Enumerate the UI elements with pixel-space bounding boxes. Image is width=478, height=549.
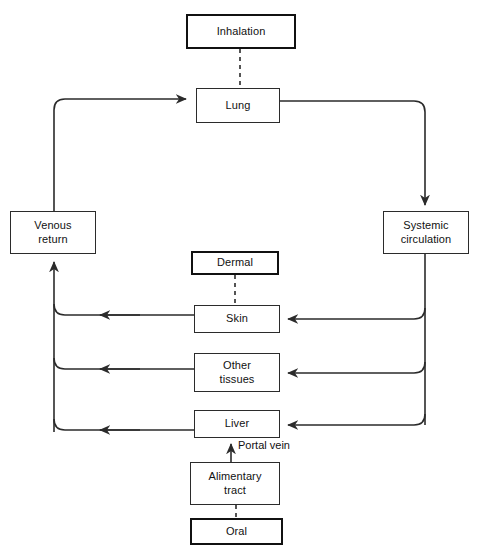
edge-skin-to-venous [54,304,194,315]
node-venous-return-label: Venous return [34,219,71,247]
node-systemic-circulation-label: Systemic circulation [401,219,452,247]
node-inhalation[interactable]: Inhalation [186,14,296,49]
edge-systemic-to-other-tissues [288,362,425,373]
node-oral-label: Oral [226,525,247,539]
node-other-tissues-label: Other tissues [220,359,255,387]
node-inhalation-label: Inhalation [217,25,266,39]
node-other-tissues[interactable]: Other tissues [194,353,280,392]
edge-systemic-to-liver [288,414,425,425]
edge-lung-to-systemic [280,101,425,205]
edge-systemic-to-skin [288,308,425,319]
node-liver[interactable]: Liver [194,410,280,438]
flow-diagram: Inhalation Lung Venous return Systemic c… [0,0,478,549]
edge-other-tissues-to-venous [54,358,194,369]
node-skin-label: Skin [226,312,248,326]
node-lung[interactable]: Lung [196,88,280,123]
node-lung-label: Lung [226,99,251,113]
node-liver-label: Liver [225,417,249,431]
edge-label-portal-vein: Portal vein [238,440,290,451]
edge-venous-to-lung [54,99,186,211]
node-skin[interactable]: Skin [194,305,280,333]
node-alimentary-tract[interactable]: Alimentary tract [190,462,280,505]
node-oral[interactable]: Oral [190,518,283,545]
node-dermal[interactable]: Dermal [191,251,279,275]
node-dermal-label: Dermal [217,256,253,270]
edge-liver-to-venous [54,419,194,430]
node-alimentary-tract-label: Alimentary tract [209,470,262,498]
node-systemic-circulation[interactable]: Systemic circulation [383,211,469,254]
node-venous-return[interactable]: Venous return [10,211,96,254]
